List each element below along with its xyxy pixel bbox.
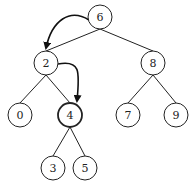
svg-text:2: 2: [43, 57, 50, 70]
tree-node-6: 6: [88, 5, 112, 29]
tree-edges: [20, 29, 176, 156]
tree-nodes: 6 2 8 0 4 7 9 3 5: [8, 5, 188, 180]
tree-node-0: 0: [8, 103, 32, 127]
edge-8-7: [128, 75, 153, 103]
edge-4-5: [70, 127, 85, 156]
tree-node-2: 2: [34, 51, 58, 75]
edge-6-8: [100, 29, 153, 51]
tree-node-4: 4: [58, 103, 82, 127]
svg-text:0: 0: [17, 109, 24, 122]
edge-4-3: [53, 127, 70, 156]
tree-node-9: 9: [164, 103, 188, 127]
edge-8-9: [153, 75, 176, 103]
tree-node-7: 7: [116, 103, 140, 127]
tree-node-8: 8: [141, 51, 165, 75]
svg-text:6: 6: [97, 11, 104, 24]
tree-node-3: 3: [41, 156, 65, 180]
arrow-2-to-4: [58, 63, 78, 101]
svg-text:7: 7: [125, 109, 132, 122]
binary-search-tree-diagram: 6 2 8 0 4 7 9 3 5: [0, 0, 195, 194]
svg-text:9: 9: [173, 109, 180, 122]
svg-text:3: 3: [50, 162, 57, 175]
tree-node-5: 5: [73, 156, 97, 180]
edge-6-2: [46, 29, 100, 51]
svg-text:8: 8: [150, 57, 157, 70]
svg-text:5: 5: [82, 162, 89, 175]
arrow-6-to-2: [46, 15, 89, 48]
edge-2-0: [20, 75, 46, 103]
svg-text:4: 4: [67, 109, 74, 122]
edge-2-4: [46, 75, 70, 103]
